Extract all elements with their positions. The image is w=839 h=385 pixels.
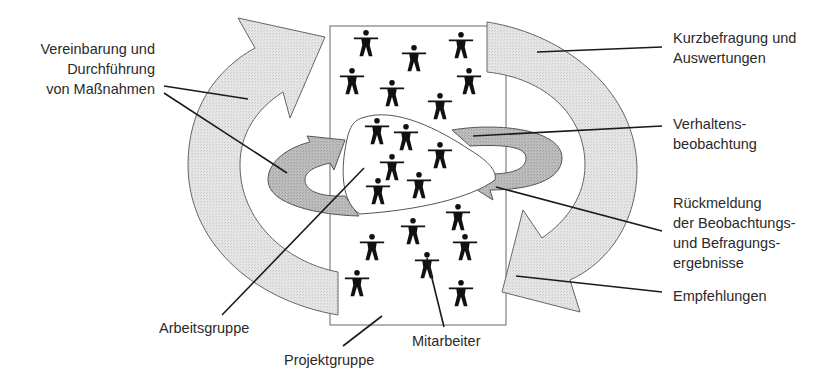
label-line: Arbeitsgruppe bbox=[159, 318, 249, 338]
label-line: Verhaltens- bbox=[673, 114, 757, 134]
label-line: Kurzbefragung und bbox=[673, 28, 796, 48]
label-line: Auswertungen bbox=[673, 48, 796, 68]
label-line: Projektgruppe bbox=[284, 350, 374, 370]
label-line: Durchführung bbox=[41, 59, 156, 79]
label-line: Rückmeldung bbox=[673, 193, 796, 213]
label-vereinbarung: Vereinbarung und Durchführung von Maßnah… bbox=[41, 39, 156, 99]
label-line: beobachtung bbox=[673, 134, 757, 154]
label-line: Mitarbeiter bbox=[412, 331, 481, 351]
label-verhaltensbeobachtung: Verhaltens- beobachtung bbox=[673, 114, 757, 154]
label-arbeitsgruppe: Arbeitsgruppe bbox=[159, 318, 249, 338]
label-kurzbefragung: Kurzbefragung und Auswertungen bbox=[673, 28, 796, 68]
label-rueckmeldung: Rückmeldung der Beobachtungs- und Befrag… bbox=[673, 193, 796, 273]
label-mitarbeiter: Mitarbeiter bbox=[412, 331, 481, 351]
right-outer-arrow bbox=[487, 22, 637, 312]
label-empfehlungen: Empfehlungen bbox=[673, 286, 767, 306]
label-line: von Maßnahmen bbox=[41, 79, 156, 99]
label-line: Vereinbarung und bbox=[41, 39, 156, 59]
label-line: ergebnisse bbox=[673, 253, 796, 273]
label-projektgruppe: Projektgruppe bbox=[284, 350, 374, 370]
label-line: Empfehlungen bbox=[673, 286, 767, 306]
label-line: und Befragungs- bbox=[673, 233, 796, 253]
label-line: der Beobachtungs- bbox=[673, 213, 796, 233]
